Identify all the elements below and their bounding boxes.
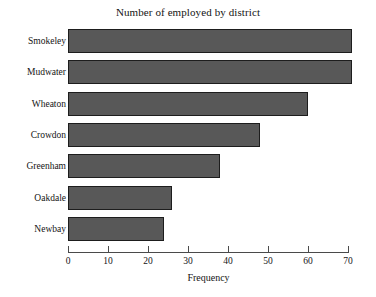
- x-axis-tick: [308, 246, 309, 252]
- category-label: Smokeley: [0, 29, 66, 53]
- category-label: Mudwater: [0, 60, 66, 84]
- x-axis-tick-label: 30: [173, 256, 203, 266]
- bar: [68, 154, 220, 178]
- x-axis-tick-label: 10: [93, 256, 123, 266]
- x-axis-tick-label: 20: [133, 256, 163, 266]
- x-axis-tick-label: 40: [213, 256, 243, 266]
- category-label: Newbay: [0, 217, 66, 241]
- x-axis-tick: [148, 246, 149, 252]
- x-axis-tick-label: 50: [253, 256, 283, 266]
- bar: [68, 92, 308, 116]
- bar-chart: Number of employed by district SmokeleyM…: [0, 0, 376, 297]
- x-axis-tick: [348, 246, 349, 252]
- x-axis-tick: [188, 246, 189, 252]
- x-axis-tick-label: 60: [293, 256, 323, 266]
- x-axis-tick-label: 0: [53, 256, 83, 266]
- x-axis-line: [68, 252, 349, 253]
- x-axis-title: Frequency: [68, 272, 349, 283]
- category-label: Wheaton: [0, 92, 66, 116]
- bar-row: [68, 29, 352, 53]
- bar: [68, 60, 352, 84]
- x-axis-tick: [228, 246, 229, 252]
- bar-row: [68, 154, 220, 178]
- category-label: Greenham: [0, 154, 66, 178]
- x-axis-tick: [68, 246, 69, 252]
- x-axis-tick: [108, 246, 109, 252]
- bar-row: [68, 92, 308, 116]
- bar: [68, 217, 164, 241]
- bar-row: [68, 217, 164, 241]
- bar: [68, 29, 352, 53]
- bar-row: [68, 186, 172, 210]
- bar: [68, 186, 172, 210]
- category-label: Oakdale: [0, 186, 66, 210]
- x-axis-tick: [268, 246, 269, 252]
- bar-row: [68, 60, 352, 84]
- x-axis-tick-label: 70: [333, 256, 363, 266]
- category-label: Crowdon: [0, 123, 66, 147]
- bar-row: [68, 123, 260, 147]
- bar: [68, 123, 260, 147]
